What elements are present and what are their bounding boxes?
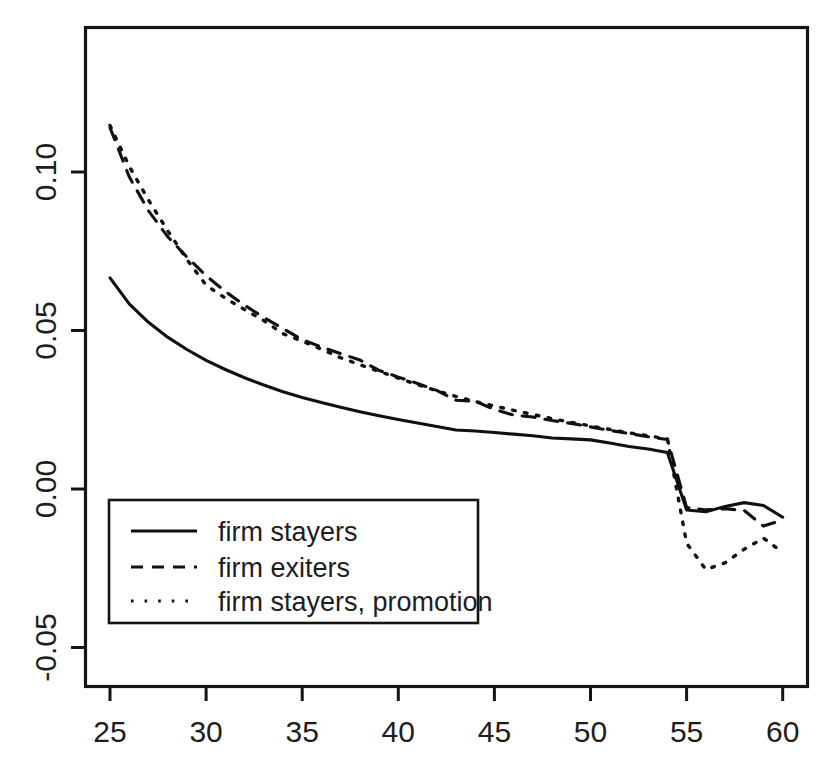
x-tick-label: 40 <box>382 715 415 748</box>
x-tick-label: 50 <box>574 715 607 748</box>
x-tick-label: 45 <box>478 715 511 748</box>
y-tick-label: 0.10 <box>29 143 62 201</box>
legend-label-firm-stayers-promotion: firm stayers, promotion <box>218 587 493 617</box>
x-tick-label: 55 <box>670 715 703 748</box>
x-tick-label: 35 <box>286 715 319 748</box>
legend-label-firm-stayers: firm stayers <box>218 517 358 547</box>
legend-label-firm-exiters: firm exiters <box>218 553 350 583</box>
y-tick-label: 0.00 <box>29 460 62 518</box>
x-tick-label: 30 <box>189 715 222 748</box>
y-tick-label: 0.05 <box>29 301 62 359</box>
figure-background <box>0 0 829 771</box>
chart-figure: 0.10 0.05 0.00 -0.05 25 30 35 40 45 50 5… <box>0 0 829 771</box>
chart-legend[interactable]: firm stayers firm exiters firm stayers, … <box>109 500 493 623</box>
y-tick-label: -0.05 <box>29 613 62 681</box>
x-tick-label: 60 <box>766 715 799 748</box>
x-tick-label: 25 <box>93 715 126 748</box>
chart-canvas: 0.10 0.05 0.00 -0.05 25 30 35 40 45 50 5… <box>0 0 829 771</box>
